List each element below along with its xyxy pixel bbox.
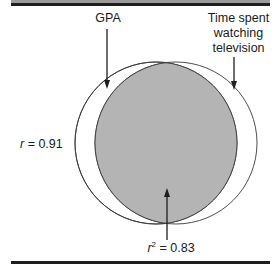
tv-label-line2: watching: [200, 26, 277, 41]
r-value: = 0.91: [24, 137, 63, 151]
r2-label: r2 = 0.83: [136, 241, 206, 256]
gpa-label: GPA: [88, 11, 128, 26]
bottom-rule: [11, 261, 270, 264]
r2-value: = 0.83: [156, 241, 195, 255]
tv-label: Time spent watching television: [200, 11, 277, 56]
tv-label-line1: Time spent: [200, 11, 277, 26]
r-label: r = 0.91: [20, 137, 80, 152]
tv-label-line3: television: [200, 41, 277, 56]
overlap-region: [95, 62, 257, 224]
